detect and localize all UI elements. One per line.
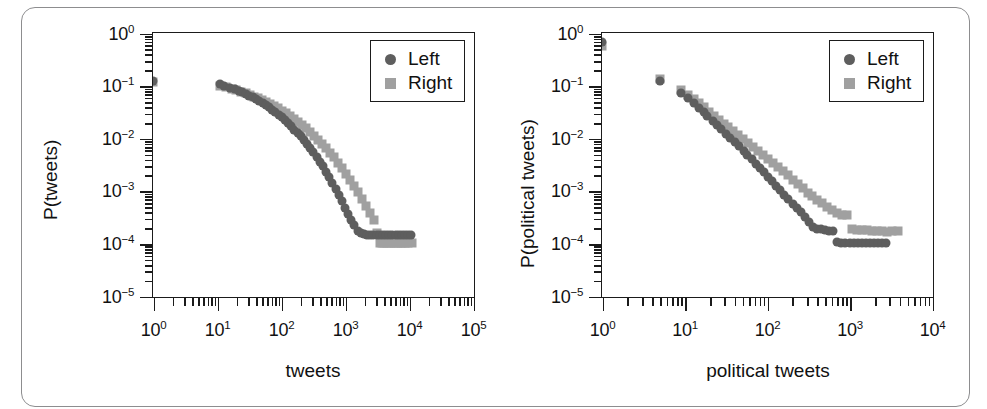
x-tick-label: 105: [461, 320, 487, 341]
x-tick-minor: [471, 298, 473, 306]
legend-item-left[interactable]: Left: [379, 47, 452, 71]
x-tick-label: 104: [397, 320, 423, 341]
y-tick-minor: [594, 196, 601, 198]
x-tick-label: 102: [755, 320, 781, 341]
y-tick-minor: [145, 194, 152, 196]
legend-item-left[interactable]: Left: [838, 47, 911, 71]
y-tick-minor: [594, 150, 601, 152]
y-tick-minor: [594, 123, 601, 125]
y-tick-minor: [594, 252, 601, 254]
y-tick-minor: [145, 252, 152, 254]
x-tick-minor: [760, 298, 762, 306]
x-tick-minor: [339, 298, 341, 306]
x-tick-minor: [256, 298, 258, 306]
y-tick-major: [140, 34, 152, 36]
panel-tweets: 10−510−410−310−210−110010010110210310410…: [0, 0, 487, 409]
y-tick-major: [140, 244, 152, 246]
y-tick-label: 10−2: [0, 128, 134, 149]
y-tick-minor: [594, 107, 601, 109]
y-tick-major: [589, 191, 601, 193]
y-tick-minor: [594, 166, 601, 168]
x-tick-major: [768, 298, 770, 311]
x-tick-minor: [267, 298, 269, 306]
x-tick-minor: [203, 298, 205, 306]
y-tick-minor: [145, 98, 152, 100]
y-tick-minor: [594, 102, 601, 104]
data-point-right: [843, 211, 852, 220]
x-tick-minor: [343, 298, 345, 306]
x-tick-minor: [900, 298, 902, 306]
y-tick-label: 10−5: [0, 286, 134, 307]
y-tick-major: [589, 34, 601, 36]
y-tick-major: [589, 86, 601, 88]
x-tick-minor: [464, 298, 466, 306]
x-tick-minor: [672, 298, 674, 306]
y-tick-minor: [594, 246, 601, 248]
y-tick-minor: [594, 36, 601, 38]
x-tick-minor: [660, 298, 662, 306]
x-tick-minor: [920, 298, 922, 306]
data-point-left: [407, 230, 416, 239]
y-tick-minor: [594, 207, 601, 209]
x-tick-label: 101: [205, 320, 231, 341]
x-tick-minor: [467, 298, 469, 306]
x-tick-minor: [735, 298, 737, 306]
x-tick-minor: [817, 298, 819, 306]
y-tick-minor: [145, 49, 152, 51]
y-tick-minor: [145, 203, 152, 205]
x-tick-minor: [929, 298, 931, 306]
y-tick-minor: [145, 36, 152, 38]
x-tick-minor: [837, 298, 839, 306]
x-tick-minor: [914, 298, 916, 306]
legend-political: Left Right: [829, 40, 924, 102]
y-tick-minor: [145, 107, 152, 109]
y-tick-minor: [145, 212, 152, 214]
y-tick-minor: [594, 281, 601, 283]
y-tick-minor: [594, 94, 601, 96]
legend-circle-icon: [379, 54, 401, 65]
y-tick-minor: [594, 54, 601, 56]
y-tick-minor: [594, 144, 601, 146]
y-tick-minor: [145, 42, 152, 44]
data-point-right: [407, 239, 416, 248]
y-tick-minor: [594, 271, 601, 273]
x-tick-minor: [792, 298, 794, 306]
y-tick-minor: [145, 207, 152, 209]
y-tick-minor: [145, 228, 152, 230]
y-tick-minor: [145, 45, 152, 47]
y-tick-minor: [594, 249, 601, 251]
data-point-left: [829, 227, 838, 236]
y-tick-major: [589, 244, 601, 246]
x-tick-minor: [454, 298, 456, 306]
y-tick-minor: [145, 89, 152, 91]
x-tick-minor: [390, 298, 392, 306]
legend-item-right[interactable]: Right: [379, 71, 452, 95]
y-tick-minor: [145, 166, 152, 168]
legend-square-icon: [838, 78, 860, 89]
y-tick-minor: [145, 249, 152, 251]
legend-item-right[interactable]: Right: [838, 71, 911, 95]
x-tick-major: [474, 298, 476, 311]
x-tick-minor: [429, 298, 431, 306]
x-tick-minor: [743, 298, 745, 306]
x-tick-minor: [400, 298, 402, 306]
y-tick-minor: [594, 256, 601, 258]
x-tick-minor: [755, 298, 757, 306]
y-tick-major: [589, 297, 601, 299]
x-tick-minor: [459, 298, 461, 306]
x-tick-major: [933, 298, 935, 311]
x-tick-major: [685, 298, 687, 311]
y-tick-minor: [594, 42, 601, 44]
y-tick-minor: [145, 281, 152, 283]
y-tick-minor: [145, 102, 152, 104]
y-tick-label: 10−4: [0, 233, 134, 254]
x-tick-minor: [384, 298, 386, 306]
y-tick-minor: [594, 114, 601, 116]
x-tick-label: 101: [672, 320, 698, 341]
y-tick-minor: [145, 150, 152, 152]
x-axis-title-tweets: tweets: [286, 360, 341, 382]
x-tick-major: [154, 298, 156, 311]
y-tick-minor: [594, 265, 601, 267]
x-tick-major: [282, 298, 284, 311]
legend-circle-icon: [838, 54, 860, 65]
